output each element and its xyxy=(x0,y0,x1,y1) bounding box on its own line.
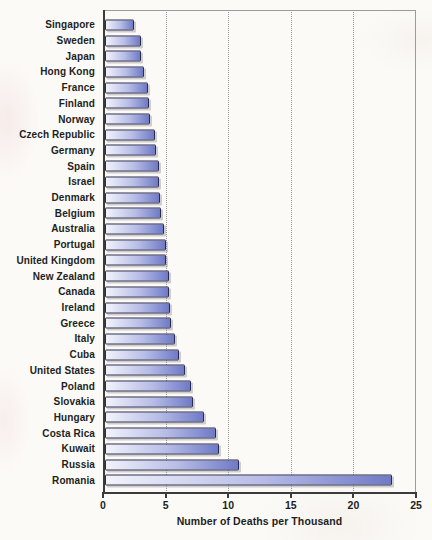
bar-row: Sweden xyxy=(0,33,416,49)
x-tick xyxy=(290,494,292,498)
bar-israel xyxy=(105,176,159,187)
bar-row: Ireland xyxy=(0,300,416,316)
category-label: Czech Republic xyxy=(0,129,103,140)
bar-singapore xyxy=(105,19,134,30)
category-label: Belgium xyxy=(0,208,103,219)
category-label: Kuwait xyxy=(0,443,103,454)
bar-slovakia xyxy=(105,396,193,407)
bar-row: Norway xyxy=(0,111,416,127)
bar-finland xyxy=(105,98,149,109)
bar-track xyxy=(103,17,416,33)
bar-track xyxy=(103,315,416,331)
category-label: Cuba xyxy=(0,349,103,360)
bar-track xyxy=(103,80,416,96)
category-label: Hong Kong xyxy=(0,66,103,77)
bar-hong-kong xyxy=(105,66,144,77)
bar-united-states xyxy=(105,365,185,376)
bar-track xyxy=(103,394,416,410)
category-label: Germany xyxy=(0,145,103,156)
bar-track xyxy=(103,472,416,488)
category-label: Ireland xyxy=(0,302,103,313)
bar-row: Germany xyxy=(0,143,416,159)
bar-row: Spain xyxy=(0,158,416,174)
bar-row: New Zealand xyxy=(0,268,416,284)
bar-row: Singapore xyxy=(0,17,416,33)
bar-row: Romania xyxy=(0,472,416,488)
bar-row: France xyxy=(0,80,416,96)
x-axis-title: Number of Deaths per Thousand xyxy=(103,515,416,527)
category-label: Hungary xyxy=(0,412,103,423)
category-label: Norway xyxy=(0,114,103,125)
bar-italy xyxy=(105,333,175,344)
bar-track xyxy=(103,284,416,300)
bar-row: Czech Republic xyxy=(0,127,416,143)
bar-new-zealand xyxy=(105,271,169,282)
bar-track xyxy=(103,425,416,441)
x-tick-label: 5 xyxy=(163,499,169,511)
bar-track xyxy=(103,410,416,426)
bar-track xyxy=(103,96,416,112)
bar-romania xyxy=(105,475,392,486)
bar-track xyxy=(103,362,416,378)
bar-track xyxy=(103,237,416,253)
category-label: United States xyxy=(0,365,103,376)
bar-row: Denmark xyxy=(0,190,416,206)
bar-row: Finland xyxy=(0,96,416,112)
bar-track xyxy=(103,253,416,269)
bar-track xyxy=(103,127,416,143)
bar-hungary xyxy=(105,412,204,423)
bar-track xyxy=(103,33,416,49)
category-label: Poland xyxy=(0,381,103,392)
bar-row: Kuwait xyxy=(0,441,416,457)
bar-track xyxy=(103,111,416,127)
bar-russia xyxy=(105,459,239,470)
bar-track xyxy=(103,441,416,457)
bar-row: Japan xyxy=(0,48,416,64)
category-label: Denmark xyxy=(0,192,103,203)
bar-row: Poland xyxy=(0,378,416,394)
bar-row: Belgium xyxy=(0,205,416,221)
category-label: Italy xyxy=(0,333,103,344)
category-label: Romania xyxy=(0,475,103,486)
bar-row: Hungary xyxy=(0,410,416,426)
bar-greece xyxy=(105,318,171,329)
bar-australia xyxy=(105,223,164,234)
category-label: Greece xyxy=(0,318,103,329)
bar-row: Slovakia xyxy=(0,394,416,410)
bar-france xyxy=(105,82,148,93)
category-label: France xyxy=(0,82,103,93)
bar-czech-republic xyxy=(105,129,155,140)
bar-sweden xyxy=(105,35,141,46)
bar-row: Italy xyxy=(0,331,416,347)
category-label: Slovakia xyxy=(0,396,103,407)
bar-row: Greece xyxy=(0,315,416,331)
x-tick xyxy=(102,494,104,498)
bar-spain xyxy=(105,161,159,172)
category-label: Finland xyxy=(0,98,103,109)
bar-canada xyxy=(105,286,169,297)
bar-row: Israel xyxy=(0,174,416,190)
bar-row: Cuba xyxy=(0,347,416,363)
x-tick-label: 0 xyxy=(100,499,106,511)
bar-track xyxy=(103,205,416,221)
bar-row: Costa Rica xyxy=(0,425,416,441)
bar-row: Portugal xyxy=(0,237,416,253)
bar-denmark xyxy=(105,192,160,203)
category-label: Israel xyxy=(0,176,103,187)
bar-row: Hong Kong xyxy=(0,64,416,80)
bar-track xyxy=(103,158,416,174)
x-tick-label: 10 xyxy=(222,499,234,511)
category-label: United Kingdom xyxy=(0,255,103,266)
bar-japan xyxy=(105,51,141,62)
bar-portugal xyxy=(105,239,166,250)
bar-track xyxy=(103,143,416,159)
bar-row: Canada xyxy=(0,284,416,300)
bar-rows: SingaporeSwedenJapanHong KongFranceFinla… xyxy=(0,10,416,493)
category-label: Russia xyxy=(0,459,103,470)
x-tick xyxy=(227,494,229,498)
bar-track xyxy=(103,64,416,80)
bar-poland xyxy=(105,381,191,392)
x-tick-label: 15 xyxy=(285,499,297,511)
category-label: New Zealand xyxy=(0,271,103,282)
bar-track xyxy=(103,347,416,363)
